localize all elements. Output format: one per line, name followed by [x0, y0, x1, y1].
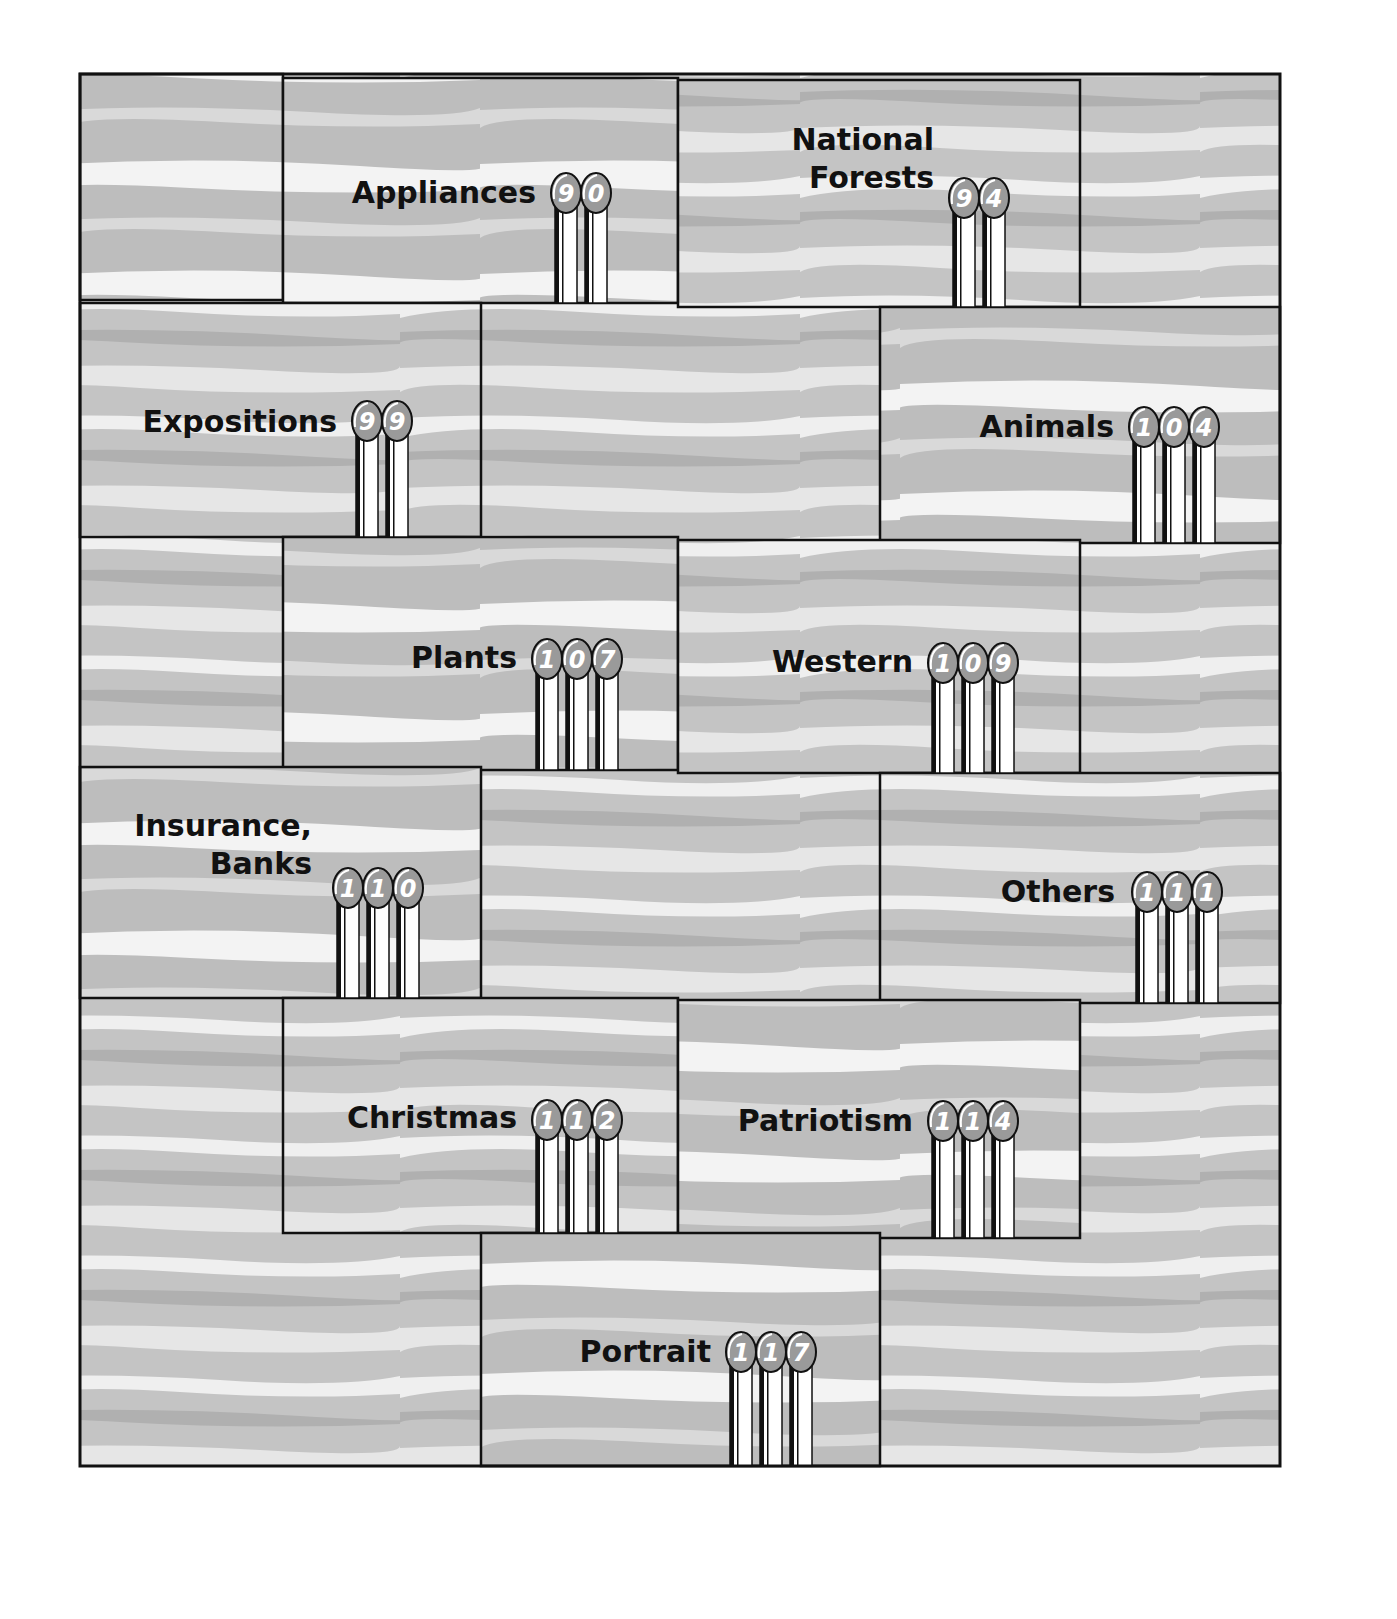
value-digit-post: 0 — [958, 643, 988, 773]
category-label: Expositions — [142, 404, 337, 439]
value-digit-post: 7 — [592, 639, 622, 770]
value-digit: 1 — [965, 1108, 982, 1136]
value-digit: 1 — [763, 1339, 780, 1367]
category-label: Portrait — [580, 1334, 711, 1369]
value-digit: 0 — [965, 650, 982, 678]
value-digit-post: 0 — [562, 639, 592, 770]
value-digit: 1 — [1139, 879, 1156, 907]
value-digit-post: 1 — [532, 1100, 562, 1233]
value-digit: 1 — [370, 875, 387, 903]
category-label: Patriotism — [738, 1103, 913, 1138]
value-digit: 1 — [935, 650, 952, 678]
value-digit: 4 — [985, 185, 1003, 213]
value-digit-post: 1 — [1162, 872, 1192, 1003]
value-digit: 9 — [558, 180, 575, 208]
value-digit: 1 — [539, 646, 556, 674]
value-digit-post: 0 — [581, 173, 611, 303]
value-digit-post: 1 — [562, 1100, 592, 1233]
value-digit-post: 1 — [363, 868, 393, 998]
value-digit-post: 0 — [1159, 407, 1189, 543]
value-digit-post: 1 — [726, 1332, 756, 1466]
value-digit-post: 4 — [988, 1101, 1018, 1238]
value-digit: 4 — [1195, 414, 1213, 442]
value-digit: 2 — [599, 1107, 616, 1135]
category-label: Insurance, — [134, 808, 312, 843]
value-digit: 7 — [599, 646, 616, 674]
value-digit: 9 — [389, 408, 406, 436]
value-digit: 0 — [400, 875, 417, 903]
value-digit-post: 4 — [1189, 407, 1219, 543]
value-digit: 0 — [1166, 414, 1183, 442]
value-digit-post: 1 — [1132, 872, 1162, 1003]
value-digit: 1 — [1136, 414, 1153, 442]
value-digit-post: 9 — [551, 173, 581, 303]
value-digit-post: 0 — [393, 868, 423, 998]
value-digit: 7 — [793, 1339, 810, 1367]
value-digit-post: 4 — [979, 178, 1009, 307]
value-digit: 1 — [1169, 879, 1186, 907]
value-digit-post: 1 — [928, 643, 958, 773]
value-digit: 9 — [359, 408, 376, 436]
value-digit-post: 1 — [333, 868, 363, 998]
value-digit: 1 — [340, 875, 357, 903]
value-digit: 0 — [588, 180, 605, 208]
category-label: Western — [772, 644, 913, 679]
step-box — [80, 74, 283, 300]
value-digit-post: 7 — [786, 1332, 816, 1466]
value-digit-post: 9 — [382, 401, 412, 537]
value-digit: 4 — [994, 1108, 1012, 1136]
staircase-chart: Appliances90NationalForests94Expositions… — [0, 0, 1397, 1619]
value-digit-post: 9 — [949, 178, 979, 307]
value-digit: 1 — [569, 1107, 586, 1135]
value-digit-post: 1 — [958, 1101, 988, 1238]
value-digit-post: 9 — [988, 643, 1018, 773]
value-digit: 1 — [935, 1108, 952, 1136]
value-digit-post: 1 — [756, 1332, 786, 1466]
value-digit-post: 1 — [1129, 407, 1159, 543]
category-label: Forests — [809, 160, 934, 195]
category-label: Animals — [979, 409, 1114, 444]
value-digit-post: 2 — [592, 1100, 622, 1233]
value-digit: 1 — [1199, 879, 1216, 907]
value-digit: 9 — [995, 650, 1012, 678]
value-digit: 1 — [539, 1107, 556, 1135]
value-digit: 9 — [956, 185, 973, 213]
category-label: Banks — [210, 846, 312, 881]
value-digit-post: 9 — [352, 401, 382, 537]
value-digit-post: 1 — [532, 639, 562, 770]
value-digit: 1 — [733, 1339, 750, 1367]
category-label: Appliances — [352, 175, 536, 210]
value-digit-post: 1 — [1192, 872, 1222, 1003]
category-label: Others — [1001, 874, 1115, 909]
category-label: Plants — [411, 640, 517, 675]
category-label: National — [792, 122, 934, 157]
value-digit: 0 — [569, 646, 586, 674]
category-label: Christmas — [347, 1100, 517, 1135]
value-digit-post: 1 — [928, 1101, 958, 1238]
